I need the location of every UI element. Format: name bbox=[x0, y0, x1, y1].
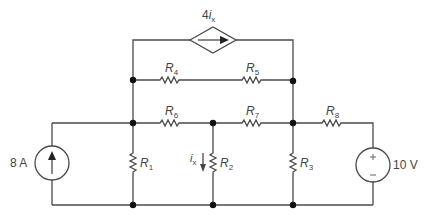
circuit-diagram: 4ix R4 R5 R6 R7 R8 R1 R2 R3 ix 8 A 10 V bbox=[0, 0, 431, 220]
resistor-r3 bbox=[290, 123, 296, 205]
arrow-down-icon bbox=[200, 164, 206, 172]
label-ix: ix bbox=[190, 152, 196, 167]
resistor-r2 bbox=[210, 123, 216, 205]
label-8a: 8 A bbox=[10, 156, 27, 170]
resistor-r1 bbox=[130, 123, 136, 205]
label-r8: R8 bbox=[326, 104, 339, 120]
circuit-schematic bbox=[0, 0, 431, 220]
current-source-8a bbox=[35, 146, 69, 180]
label-10v: 10 V bbox=[393, 158, 418, 172]
arrow-right-icon bbox=[220, 36, 229, 44]
label-r6: R6 bbox=[165, 104, 178, 120]
wire-top-right bbox=[236, 40, 293, 80]
dependent-source-label: 4ix bbox=[202, 8, 215, 24]
label-r5: R5 bbox=[246, 61, 259, 77]
label-r2: R2 bbox=[220, 156, 233, 172]
arrow-up-icon bbox=[48, 151, 56, 160]
label-r4: R4 bbox=[165, 61, 178, 77]
label-r1: R1 bbox=[140, 156, 153, 172]
wire-top-left bbox=[133, 40, 190, 80]
label-r7: R7 bbox=[246, 104, 259, 120]
label-r3: R3 bbox=[300, 156, 313, 172]
dependent-current-source bbox=[190, 27, 236, 53]
voltage-source-10v bbox=[356, 148, 390, 182]
wire-r4-r5 bbox=[133, 77, 293, 83]
